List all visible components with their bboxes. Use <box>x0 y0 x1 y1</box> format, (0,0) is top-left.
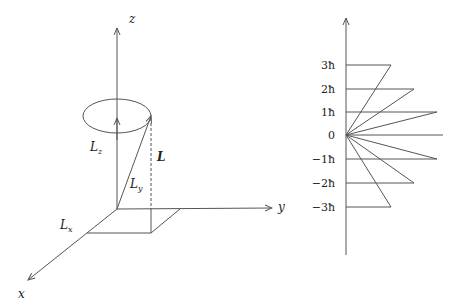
level-label-3: 3ħ <box>321 59 335 72</box>
z-axis-label: z <box>128 12 136 26</box>
ly-label: Ly <box>129 177 143 193</box>
level-label-neg1: −1ħ <box>312 153 335 166</box>
y-axis <box>117 208 272 209</box>
level-label-neg2: −2ħ <box>312 177 335 190</box>
y-axis-label: y <box>277 200 285 214</box>
vector-line-neg3 <box>346 135 391 207</box>
l-vector-label: L <box>156 150 165 164</box>
quantization-diagram: 3ħ 2ħ 1ħ 0 −1ħ −2ħ −3ħ <box>312 18 443 255</box>
x-axis <box>28 209 117 280</box>
angular-momentum-diagram: z y x Lz Ly Lx L 3ħ 2ħ 1ħ 0 −1ħ −2 <box>0 0 455 308</box>
level-label-2: 2ħ <box>321 83 335 96</box>
level-label-0: 0 <box>328 129 335 142</box>
vector-line-3 <box>346 65 391 135</box>
vector-line-1 <box>346 112 437 135</box>
vector-line-neg1 <box>346 135 437 159</box>
lx-label: Lx <box>59 218 73 234</box>
projection-box-side <box>151 209 180 233</box>
vector-model: z y x Lz Ly Lx L <box>18 12 285 301</box>
lz-label: Lz <box>89 140 103 156</box>
x-axis-label: x <box>18 287 25 301</box>
level-label-neg3: −3ħ <box>312 201 335 214</box>
level-label-1: 1ħ <box>321 106 335 119</box>
l-vector <box>117 116 151 209</box>
